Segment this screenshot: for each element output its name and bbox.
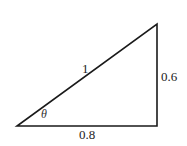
- right-triangle-diagram: 1 0.6 0.8 θ: [0, 0, 187, 146]
- angle-theta-label: θ: [41, 107, 47, 121]
- vertical-leg-label: 0.6: [161, 69, 178, 84]
- hypotenuse-label: 1: [82, 61, 89, 76]
- horizontal-leg-label: 0.8: [79, 127, 95, 142]
